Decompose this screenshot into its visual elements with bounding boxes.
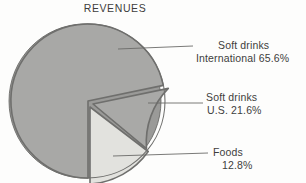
callout-foods-line2: 12.8% [211, 159, 253, 172]
callout-us-line1: Soft drinks [206, 91, 262, 104]
callout-international-line2: International 65.6% [196, 52, 289, 65]
callout-soft-drinks-international: Soft drinks International 65.6% [196, 39, 289, 65]
pie-chart-figure: REVENUES Soft drinks International 65.6%… [0, 0, 306, 183]
callout-soft-drinks-us: Soft drinks U.S. 21.6% [206, 91, 262, 117]
callout-foods: Foods 12.8% [211, 146, 253, 172]
callout-foods-line1: Foods [211, 146, 253, 159]
callout-us-line2: U.S. 21.6% [206, 104, 262, 117]
callout-international-line1: Soft drinks [196, 39, 289, 52]
